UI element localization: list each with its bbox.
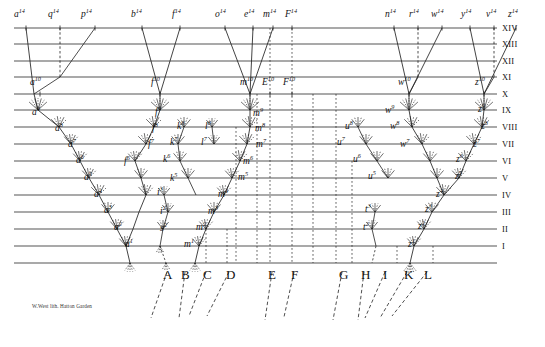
fan-stroke (432, 204, 439, 212)
species-generation: 8 (350, 119, 353, 126)
fan-stroke (188, 170, 194, 178)
fan-stroke (164, 188, 170, 195)
species-generation: 9 (37, 105, 40, 112)
branch-segment (372, 212, 375, 229)
species-label-r14: r14 (409, 8, 419, 20)
species-generation: 9 (158, 105, 161, 112)
species-label-k5: k5 (170, 172, 177, 184)
species-generation: 1 (191, 237, 194, 244)
genus-label-C: C (203, 267, 212, 283)
species-generation: 14 (413, 7, 419, 14)
branch-segment (133, 212, 139, 229)
species-generation: 3 (368, 202, 371, 209)
species-generation: 1 (130, 237, 133, 244)
species-label-m5: m5 (238, 171, 248, 183)
species-generation: 14 (270, 7, 276, 14)
species-label-z10: z10 (475, 76, 485, 88)
species-generation: 4 (99, 187, 102, 194)
species-generation: 7 (174, 135, 177, 142)
fan-stroke (377, 153, 383, 161)
species-label-a6: a6 (76, 154, 84, 166)
fan-stroke (141, 169, 144, 178)
species-generation: 6 (81, 153, 84, 160)
species-label-w10: w10 (398, 76, 411, 88)
level-label-II: II (502, 224, 508, 234)
species-label-l7: l7 (201, 136, 207, 148)
fan-stroke-down (192, 263, 195, 272)
species-letter: m (256, 139, 263, 149)
genus-label-G: G (339, 267, 348, 283)
species-generation: 4 (225, 187, 228, 194)
species-generation: 3 (215, 204, 218, 211)
species-label-z14: z14 (508, 8, 518, 20)
species-generation: 1 (412, 237, 415, 244)
level-label-VI: VI (502, 156, 511, 166)
genus-label-K: K (404, 267, 413, 283)
species-label-z1: z1 (408, 238, 415, 250)
species-label-m10: m10 (240, 76, 253, 88)
fan-stroke (141, 170, 147, 178)
species-label-E10: E10 (262, 76, 274, 88)
fan-stroke (168, 205, 174, 212)
species-generation: 3 (160, 185, 163, 192)
species-label-p14: p14 (81, 8, 92, 20)
species-generation: 14 (248, 7, 254, 14)
species-letter: m (263, 9, 270, 19)
species-label-k7: k7 (170, 136, 177, 148)
species-generation: 8 (396, 119, 399, 126)
species-label-z5: z5 (455, 170, 462, 182)
species-label-z2: z2 (418, 220, 425, 232)
species-label-v14: v14 (486, 8, 496, 20)
species-generation: 10 (247, 75, 253, 82)
species-label-f8: f8 (152, 122, 158, 134)
level-label-I: I (502, 241, 505, 251)
branch-lines (26, 28, 516, 263)
level-label-XIII: XIII (502, 39, 517, 49)
fan-stroke (355, 118, 358, 127)
species-letter: m (196, 222, 203, 232)
fan-stroke-down (195, 263, 198, 272)
fan-stroke (358, 119, 364, 127)
species-generation: 9 (391, 103, 394, 110)
branch-segment (135, 144, 146, 161)
species-letter: m (208, 206, 215, 216)
species-generation: 6 (250, 154, 253, 161)
species-label-f7: f7 (148, 138, 154, 150)
level-label-III: III (502, 207, 511, 217)
fan-stroke (372, 204, 375, 212)
fan-stroke (388, 170, 394, 178)
fan-stroke (180, 153, 186, 161)
species-generation: 6 (167, 152, 170, 159)
species-letter: m (243, 156, 250, 166)
species-label-a8: a8 (55, 122, 63, 134)
species-generation: 14 (136, 7, 142, 14)
species-label-f6: f6 (124, 155, 130, 167)
fan-stroke-down (130, 263, 135, 270)
species-label-z9: z9 (478, 103, 485, 115)
species-label-a3: a3 (104, 204, 112, 216)
fan-stroke (430, 152, 434, 161)
fan-stroke (366, 136, 372, 144)
species-label-w8: w8 (390, 120, 399, 132)
species-generation: 10 (289, 75, 295, 82)
branch-segment (366, 144, 377, 161)
species-label-a4: a4 (94, 188, 102, 200)
species-label-z4: z4 (436, 188, 443, 200)
species-label-a7: a7 (68, 138, 76, 150)
species-generation: 2 (366, 220, 369, 227)
level-label-V: V (502, 173, 508, 183)
species-label-l8: l8 (205, 120, 211, 132)
lithographer-credit: W.West lith. Hatton Garden (32, 303, 92, 309)
fan-stroke (146, 185, 151, 195)
species-generation: 14 (19, 7, 25, 14)
species-label-q14: q14 (48, 8, 59, 20)
species-label-s2: s2 (160, 222, 167, 234)
species-label-m9: m9 (253, 107, 263, 119)
fan-stroke (214, 137, 220, 144)
species-label-k8: k8 (177, 120, 184, 132)
species-generation: 10 (35, 75, 41, 82)
species-label-w7: w7 (400, 138, 409, 150)
fan-stroke (375, 205, 381, 212)
branch-segment (188, 178, 196, 195)
species-label-m1: m1 (184, 238, 194, 250)
